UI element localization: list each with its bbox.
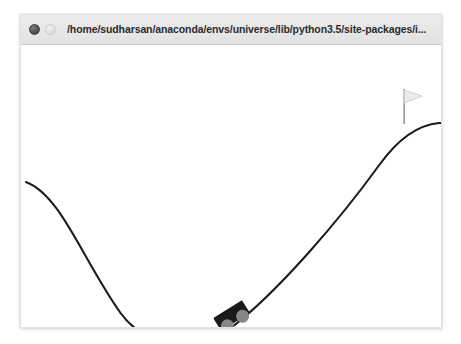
mountain-car-scene	[21, 45, 441, 328]
close-icon[interactable]	[29, 24, 40, 35]
env-render-canvas	[21, 45, 441, 328]
application-window: /home/sudharsan/anaconda/envs/universe/l…	[20, 14, 442, 328]
window-title: /home/sudharsan/anaconda/envs/universe/l…	[67, 24, 426, 35]
minimize-icon[interactable]	[45, 24, 56, 35]
window-titlebar[interactable]: /home/sudharsan/anaconda/envs/universe/l…	[21, 15, 441, 45]
goal-flag	[404, 89, 422, 124]
screen-background: /home/sudharsan/anaconda/envs/universe/l…	[0, 0, 461, 344]
flag-banner-icon	[404, 90, 422, 103]
mountain-track-path	[26, 123, 441, 328]
mountain-car	[213, 300, 253, 328]
